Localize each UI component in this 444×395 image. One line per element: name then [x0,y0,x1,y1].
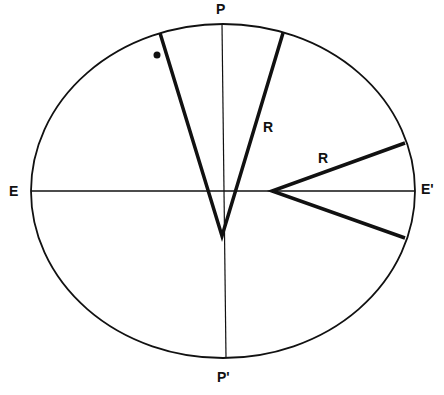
label-radius-upper: R [263,120,273,134]
label-left-equator: E [9,184,18,198]
label-right-equator: E' [421,182,434,196]
label-radius-right: R [318,151,328,165]
diagram-canvas [0,0,444,395]
marker-dot [154,52,161,59]
label-top-pole: P [216,2,225,16]
label-bottom-pole: P' [217,370,230,384]
